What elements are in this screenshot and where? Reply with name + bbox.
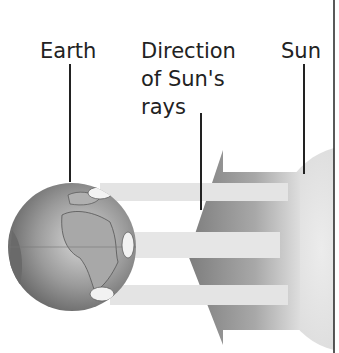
earth-leader-line	[69, 64, 71, 182]
sun-leader-line	[303, 64, 305, 174]
earth-globe	[8, 183, 136, 311]
earth-label: Earth	[40, 39, 96, 63]
rays-label-line3: rays	[141, 95, 186, 119]
rays-label-line2: of Sun's	[141, 67, 225, 91]
rays-leader-line	[200, 113, 202, 210]
sun-label: Sun	[281, 39, 321, 63]
rays-label-line1: Direction	[141, 39, 236, 63]
